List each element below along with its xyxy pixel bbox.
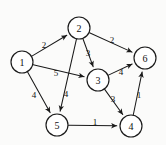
node-3[interactable]: 3 xyxy=(87,69,109,91)
node-1[interactable]: 1 xyxy=(11,51,33,73)
graph-canvas: 2542344311 123456 xyxy=(0,0,166,145)
node-5[interactable]: 5 xyxy=(46,114,68,136)
edge-weight-2-3: 3 xyxy=(86,48,91,58)
node-label-5: 5 xyxy=(55,120,60,131)
edge-weight-2-6: 2 xyxy=(110,35,115,45)
edge-1-to-2 xyxy=(32,35,67,56)
node-2[interactable]: 2 xyxy=(68,17,90,39)
node-label-6: 6 xyxy=(143,53,148,64)
edge-weight-1-3: 5 xyxy=(54,68,59,78)
node-label-1: 1 xyxy=(20,57,25,68)
edge-weight-1-5: 4 xyxy=(32,90,37,100)
directed-weighted-graph-figure: 2542344311 123456 xyxy=(0,0,166,145)
node-4[interactable]: 4 xyxy=(120,115,142,137)
edge-weight-1-2: 2 xyxy=(42,40,47,50)
edge-1-to-3 xyxy=(33,65,84,77)
edge-weight-3-4: 3 xyxy=(111,94,116,104)
node-label-3: 3 xyxy=(96,75,101,86)
node-label-2: 2 xyxy=(77,23,82,34)
node-6[interactable]: 6 xyxy=(134,47,156,69)
edge-weight-4-6: 1 xyxy=(137,90,142,100)
edge-2-to-5 xyxy=(60,39,76,111)
node-label-4: 4 xyxy=(129,121,134,132)
edge-weight-5-4: 1 xyxy=(93,117,98,127)
edge-weight-3-6: 4 xyxy=(119,67,124,77)
edge-weight-2-5: 4 xyxy=(64,89,69,99)
